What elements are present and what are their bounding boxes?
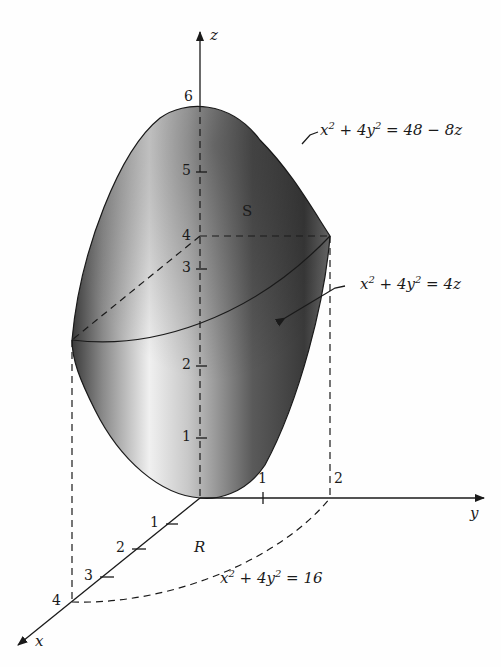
x-axis	[18, 498, 200, 645]
region-boundary-equation: x2 + 4y2 = 16	[220, 568, 323, 587]
z-tick-5: 5	[182, 162, 191, 178]
upper-leader	[302, 132, 318, 144]
solid-label: S	[242, 202, 252, 220]
y-axis-label: y	[470, 504, 478, 522]
z-axis-label: z	[210, 26, 218, 44]
lower-surface-equation: x2 + 4y2 = 4z	[360, 274, 461, 293]
figure: z y x 1 2 3 4 5 6 1 2 1 2 3 4 S R x2 + 4…	[0, 0, 501, 667]
y-tick-2: 2	[334, 470, 343, 486]
z-tick-4: 4	[182, 227, 191, 243]
x-tick-1: 1	[150, 514, 159, 530]
x-axis-label: x	[35, 632, 43, 650]
x-tick-3: 3	[84, 567, 93, 583]
z-tick-2: 2	[182, 356, 191, 372]
z-tick-3: 3	[182, 259, 191, 275]
x-tick-2: 2	[116, 539, 125, 555]
y-tick-1: 1	[258, 470, 267, 486]
solid-s	[72, 106, 330, 498]
diagram-svg	[0, 0, 501, 667]
region-label: R	[194, 538, 205, 556]
x-tick-4: 4	[52, 592, 61, 608]
z-tick-6: 6	[184, 88, 193, 104]
z-tick-1: 1	[182, 428, 191, 444]
upper-surface-equation: x2 + 4y2 = 48 − 8z	[320, 120, 462, 139]
